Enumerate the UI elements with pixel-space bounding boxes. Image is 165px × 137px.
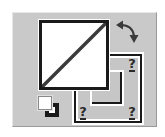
default-foreground-square (38, 96, 52, 110)
foreground-color-swatch[interactable] (38, 19, 110, 91)
foreground-swatch-border (39, 20, 109, 90)
swap-colors-icon[interactable] (113, 19, 141, 47)
color-swatch-widget: ? ? ? (0, 0, 165, 137)
default-colors-icon[interactable] (37, 95, 61, 119)
unknown-color-marker-top-right: ? (127, 58, 137, 72)
unknown-color-marker-bottom-right: ? (127, 106, 137, 120)
unknown-color-marker-bottom-left: ? (78, 106, 88, 120)
no-color-diagonal-icon (42, 23, 106, 87)
